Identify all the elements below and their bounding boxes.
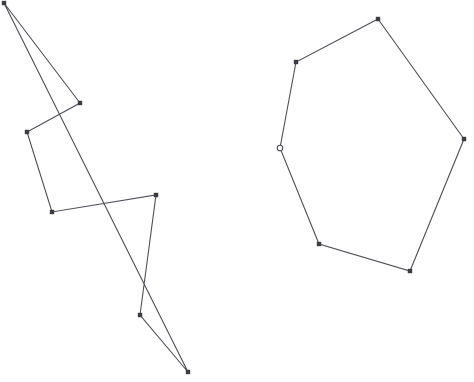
vertex-marker-l3[interactable] [25,130,29,134]
vertex-marker-l7[interactable] [186,370,190,374]
shapes-layer [2,1,466,374]
self-intersecting-polygon [2,1,190,374]
vertex-marker-l1[interactable] [2,1,6,5]
vertex-marker-l5[interactable] [154,193,158,197]
vertex-marker-r3[interactable] [408,269,412,273]
vertex-marker-open-r5[interactable] [277,145,283,151]
left-polygon-outline [4,3,188,372]
vertex-marker-l6[interactable] [138,313,142,317]
vertex-marker-r4[interactable] [317,242,321,246]
vertex-marker-r1[interactable] [376,17,380,21]
vertex-marker-r2[interactable] [462,137,466,141]
convex-hexagon [277,17,466,273]
polygon-figure-svg [0,0,474,382]
vertex-marker-r6[interactable] [294,60,298,64]
vertex-marker-l4[interactable] [50,210,54,214]
figure-canvas [0,0,474,382]
right-polygon-outline [280,19,464,271]
vertex-marker-l2[interactable] [78,101,82,105]
